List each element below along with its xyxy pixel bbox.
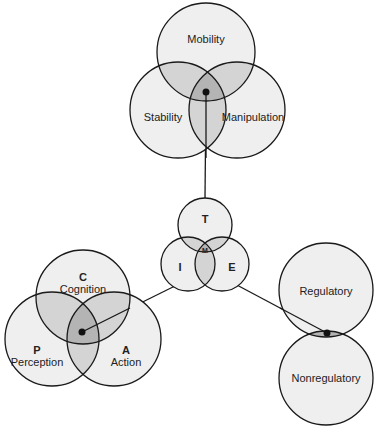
label-nonregulatory: Nonregulatory bbox=[291, 372, 361, 384]
venn-diagram: Mobility Stability Manipulation T I E M bbox=[0, 0, 388, 427]
label-e: E bbox=[228, 261, 235, 273]
label-regulatory: Regulatory bbox=[299, 285, 353, 297]
top-venn: Mobility Stability Manipulation bbox=[130, 3, 285, 158]
label-action: Action bbox=[111, 356, 142, 368]
dot-top bbox=[203, 89, 210, 96]
label-mobility: Mobility bbox=[187, 33, 225, 45]
label-stability: Stability bbox=[144, 111, 183, 123]
dot-right bbox=[324, 330, 331, 337]
left-venn: C Cognition P Perception A Action bbox=[5, 250, 161, 386]
label-c-letter: C bbox=[79, 271, 87, 283]
label-m: M bbox=[202, 247, 208, 254]
label-cognition: Cognition bbox=[60, 283, 106, 295]
dot-left bbox=[79, 329, 86, 336]
label-i: I bbox=[178, 261, 181, 273]
center-venn: T I E M bbox=[161, 198, 249, 291]
right-venn: Regulatory Nonregulatory bbox=[279, 243, 373, 425]
label-t: T bbox=[202, 213, 209, 225]
label-a-letter: A bbox=[122, 344, 130, 356]
label-perception: Perception bbox=[11, 356, 64, 368]
label-p-letter: P bbox=[33, 344, 40, 356]
label-manipulation: Manipulation bbox=[222, 111, 284, 123]
